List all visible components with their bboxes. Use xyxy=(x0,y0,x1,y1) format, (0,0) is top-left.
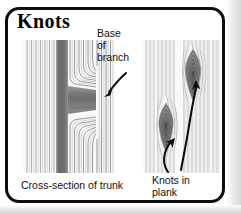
plank-grain-drawing xyxy=(143,40,221,173)
page-edge-shadow-right xyxy=(226,0,241,214)
figure-title: Knots xyxy=(17,11,70,31)
caption-knots-in-plank: Knots in plank xyxy=(152,174,190,198)
figure-knots: Knots xyxy=(0,0,241,214)
caption-cross-section-of-trunk: Cross-section of trunk xyxy=(21,179,123,191)
page-edge-shadow-bottom xyxy=(0,205,241,214)
label-base-of-branch: Base of branch xyxy=(97,27,129,63)
illustration-knots-in-plank xyxy=(143,40,221,173)
